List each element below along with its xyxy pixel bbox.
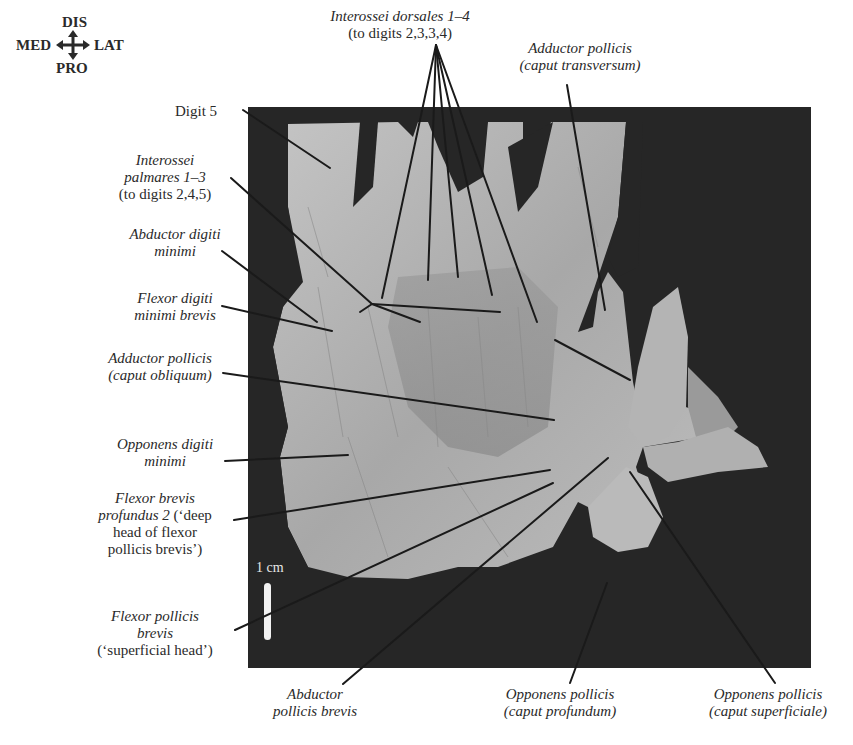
label-abductor-digiti-minimi: Abductor digiti minimi [110, 226, 240, 260]
four-way-arrow-icon [56, 30, 90, 60]
label-interossei-dorsales: Interossei dorsales 1–4 (to digits 2,3,3… [305, 8, 495, 42]
scale-bar-label: 1 cm [256, 560, 284, 576]
compass-med: MED [16, 37, 51, 53]
hand-specimen [248, 107, 811, 668]
dissection-photo: 1 cm [248, 107, 811, 668]
label-opponens-pollicis-profundum: Opponens pollicis (caput profundum) [480, 686, 640, 720]
label-opponens-digiti-minimi: Opponens digiti minimi [100, 436, 230, 470]
label-digit-5: Digit 5 [175, 103, 217, 120]
label-flexor-digiti-minimi-brevis: Flexor digiti minimi brevis [110, 290, 240, 324]
label-opponens-pollicis-superficiale: Opponens pollicis (caput superficiale) [688, 686, 848, 720]
label-adductor-pollicis-obliquum: Adductor pollicis (caput obliquum) [85, 350, 235, 384]
label-flexor-pollicis-brevis: Flexor pollicis brevis (‘superficial hea… [80, 608, 230, 659]
label-adductor-pollicis-transversum: Adductor pollicis (caput transversum) [500, 40, 660, 74]
label-flexor-brevis-profundus-2: Flexor brevis profundus 2 (‘deep head of… [80, 490, 230, 558]
label-abductor-pollicis-brevis: Abductor pollicis brevis [255, 686, 375, 720]
scale-bar [264, 583, 271, 640]
label-interossei-palmares: Interossei palmares 1–3 (to digits 2,4,5… [100, 152, 230, 203]
compass-lat: LAT [94, 37, 124, 53]
compass-dis: DIS [62, 14, 87, 30]
compass-pro: PRO [56, 60, 88, 76]
